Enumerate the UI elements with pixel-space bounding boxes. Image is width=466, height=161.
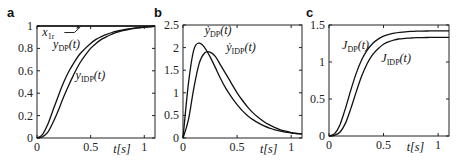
series-label: ẏIDP(t) [225,40,256,56]
x-axis-label: t[s] [113,142,131,156]
y-tick-label: 1 [27,19,33,33]
y-tick-label: 1.5 [310,18,325,32]
x-tick-label: 0 [34,140,40,154]
x-tick-label: 1 [288,140,294,154]
x-tick-label: 1 [435,138,441,152]
figure: a b c 00.5100.20.40.60.81t[s]x1ryDP(t)yI… [0,0,466,161]
x-tick-label: 0.5 [83,140,98,154]
y-tick-label: 2.5 [164,18,179,32]
y-tick-label: 0.5 [164,108,179,122]
series-line--dp-t- [183,43,302,138]
y-tick-label: 0.2 [18,109,33,123]
series-label: JDP(t) [342,38,369,54]
y-tick-label: 2 [173,41,179,55]
series-line--idp-t- [183,52,302,138]
series-label: yDP(t) [52,37,80,53]
x-tick-label: 0 [180,140,186,154]
x-axis-label: t[s] [260,142,278,156]
panel-b-chart: 00.5100.511.522.5t[s]ẏDP(t)ẏIDP(t) [164,18,302,156]
axes-frame [183,25,302,138]
panel-a-chart: 00.5100.20.40.60.81t[s]x1ryDP(t)yIDP(t) [18,19,155,156]
y-tick-label: 0.6 [18,64,33,78]
panel-c-chart: 00.5100.511.5t[s]JDP(t)JIDP(t) [310,18,449,154]
y-tick-label: 1.5 [164,63,179,77]
series-label: yIDP(t) [75,68,106,84]
y-tick-label: 0 [173,131,179,145]
y-tick-label: 0 [27,131,33,145]
x-tick-label: 0 [326,138,332,152]
x-axis-label: t[s] [407,140,425,154]
x-tick-label: 0.5 [376,138,391,152]
y-tick-label: 1 [319,55,325,69]
series-label: JIDP(t) [381,51,411,67]
y-tick-label: 0.8 [18,41,33,55]
x-tick-label: 1 [141,140,147,154]
y-tick-label: 0.5 [310,92,325,106]
x-tick-label: 0.5 [230,140,245,154]
panel-letter-b: b [154,5,162,20]
y-tick-label: 0.4 [18,86,33,100]
y-tick-label: 1 [173,86,179,100]
panel-letter-a: a [7,5,15,20]
y-tick-label: 0 [319,129,325,143]
